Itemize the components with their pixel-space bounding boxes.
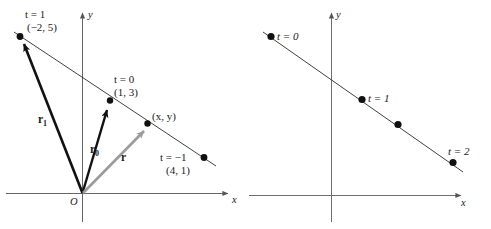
point-t2-group: t = 2 xyxy=(448,145,470,166)
y-axis-label: y xyxy=(87,9,93,20)
vector-r0-label-sub: 0 xyxy=(95,149,99,158)
point-xy-coord-label: (x, y) xyxy=(152,110,176,123)
vector-r1-label: r1 xyxy=(38,113,47,128)
point-t1-group: t = 1 xyxy=(358,92,389,104)
vector-r1-shaft xyxy=(24,44,83,193)
right-panel: x y t = 0 t = 1 t = 2 xyxy=(245,0,491,229)
y-axis-label: y xyxy=(335,9,341,20)
point-t2-dot xyxy=(449,159,456,166)
point-t0-dot xyxy=(107,97,113,103)
x-axis-label: x xyxy=(460,197,466,208)
point-t0-param-label: t = 0 xyxy=(277,30,299,42)
vector-r1: r1 xyxy=(24,44,83,193)
point-t1-dot xyxy=(358,96,365,103)
point-t0-coord-label: (1, 3) xyxy=(114,86,138,99)
point-tm1-group: t = −1 (4, 1) xyxy=(160,151,207,177)
point-unlabeled-group xyxy=(394,121,401,128)
point-t1-coord-label: (−2, 5) xyxy=(27,21,57,34)
figure-root: x y O r1 r0 r t = 1 (−2 xyxy=(0,0,491,229)
point-xy-group: (x, y) xyxy=(144,110,176,127)
vector-r-label: r xyxy=(121,151,126,163)
point-tm1-param-label: t = −1 xyxy=(160,151,186,163)
point-unlabeled-dot xyxy=(394,121,401,128)
point-t2-param-label: t = 2 xyxy=(448,145,470,157)
point-t1-param-label: t = 1 xyxy=(368,92,389,104)
point-t1-dot xyxy=(17,33,24,40)
point-t0-param-label: t = 0 xyxy=(114,73,135,85)
x-axis-label: x xyxy=(231,194,237,205)
point-t1-param-label: t = 1 xyxy=(25,8,45,20)
origin-label: O xyxy=(70,196,78,207)
point-xy-dot xyxy=(144,120,150,126)
point-t1-group: t = 1 (−2, 5) xyxy=(17,8,58,40)
vector-r1-label-sub: 1 xyxy=(43,119,47,128)
point-t0-group: t = 0 xyxy=(267,30,299,42)
point-t0-group: t = 0 (1, 3) xyxy=(107,73,138,104)
left-panel: x y O r1 r0 r t = 1 (−2 xyxy=(0,0,245,229)
point-t0-dot xyxy=(267,33,274,40)
point-tm1-dot xyxy=(201,154,208,161)
point-tm1-coord-label: (4, 1) xyxy=(166,164,190,177)
